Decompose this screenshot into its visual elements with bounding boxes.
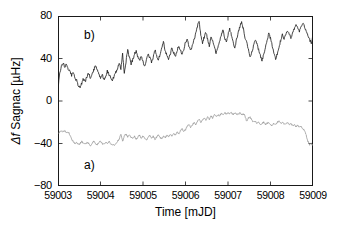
ytick-80: 80: [18, 10, 52, 21]
y-axis-f-symbol: f: [9, 133, 23, 136]
y-axis-units: Sagnac [µHz]: [9, 57, 23, 133]
plot-area: [58, 16, 313, 186]
y-axis-delta-symbol: Δ: [9, 136, 23, 144]
ytick-minus-40: −40: [18, 138, 52, 149]
series-line-a: [58, 112, 313, 146]
ytick-40: 40: [18, 53, 52, 64]
figure-sagnac-frequency: 80 40 0 −40 −80 59003 59004 59005 59006 …: [0, 0, 344, 230]
curve-label-a: a): [84, 159, 95, 172]
xtick-59009: 59009: [283, 189, 343, 201]
y-axis-title: Δf Sagnac [µHz]: [9, 16, 23, 186]
x-axis-title: Time [mJD]: [58, 205, 313, 219]
series-line-b: [58, 21, 313, 88]
ytick-0: 0: [18, 95, 52, 106]
curve-label-b: b): [84, 29, 95, 42]
